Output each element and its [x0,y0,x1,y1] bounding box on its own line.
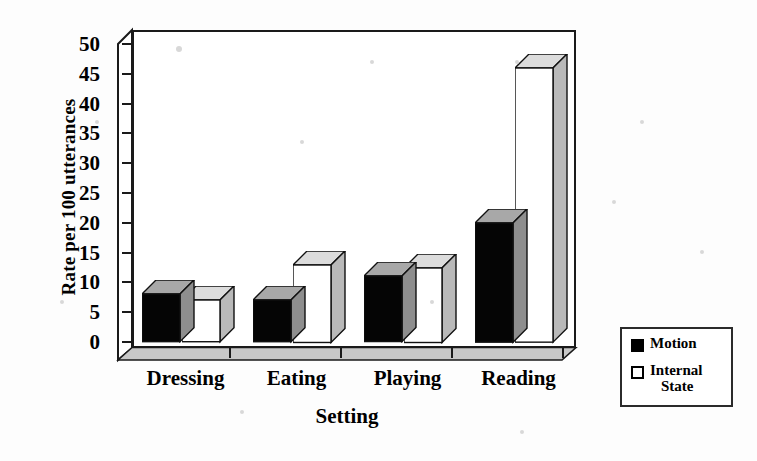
chart-legend: Motion Internal State [620,327,733,407]
y-axis-tick-label: 45 [36,63,100,84]
legend-label-line1: Internal [650,362,703,378]
scan-artifact [700,250,704,254]
y-axis-tick-label: 10 [36,272,100,293]
x-axis-title: Setting [118,404,576,429]
x-axis-tick-label-eating: Eating [267,366,327,391]
legend-item-internal-state: Internal State [631,363,731,395]
y-axis-tick-label: 50 [36,34,100,55]
x-axis-tick-label-reading: Reading [481,366,556,391]
scan-artifact [520,430,524,434]
legend-label-line2: State [650,379,703,395]
bar-reading-motion [475,209,529,344]
scan-artifact [612,200,616,204]
legend-label-motion: Motion [650,336,697,352]
y-axis-tick-labels: 05101520253035404550 [36,18,100,366]
y-axis-tick-label: 35 [36,123,100,144]
legend-swatch-hollow-square-icon [631,366,644,379]
plot-area [118,30,576,360]
scan-artifact [640,120,644,124]
y-axis-tick-label: 5 [36,302,100,323]
y-axis-tick-label: 0 [36,332,100,353]
y-axis-tick-label: 40 [36,93,100,114]
bar-playing-motion [364,262,418,344]
bars-layer [118,30,576,360]
y-axis-tick-label: 25 [36,183,100,204]
legend-label-internal-state: Internal State [650,363,703,395]
x-axis-tick-label-dressing: Dressing [147,366,225,391]
bar-eating-motion [253,286,307,344]
x-axis-tick-labels: DressingEatingPlayingReading [118,366,588,400]
legend-item-motion: Motion [631,336,731,352]
y-axis-tick-label: 20 [36,212,100,233]
legend-swatch-filled-square-icon [631,339,644,352]
y-axis-tick-label: 15 [36,242,100,263]
x-axis-tick-label-playing: Playing [374,366,442,391]
y-axis-tick-label: 30 [36,153,100,174]
bar-chart: Rate per 100 utterances 0510152025303540… [0,0,757,461]
bar-dressing-motion [142,280,196,344]
